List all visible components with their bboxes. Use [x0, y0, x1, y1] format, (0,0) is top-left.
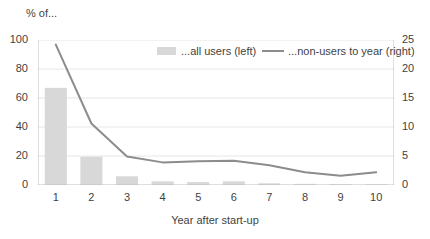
y-axis-right-tick: 15 — [402, 91, 428, 103]
chart-container: % of... 020406080100 0510152025 12345678… — [0, 0, 430, 239]
x-axis-tick: 9 — [326, 191, 356, 203]
legend-item-line: ...non-users to year (right) — [262, 45, 415, 57]
y-axis-left-tick: 0 — [2, 178, 28, 190]
y-axis-right-tick: 10 — [402, 120, 428, 132]
legend-bar-swatch-icon — [157, 47, 176, 55]
bar — [45, 88, 67, 185]
x-axis-tick: 6 — [219, 191, 249, 203]
chart-title: % of... — [26, 7, 57, 19]
bar — [116, 176, 138, 185]
legend-line-swatch-icon — [262, 50, 284, 52]
legend-bars-label: ...all users (left) — [181, 45, 256, 57]
y-axis-left-tick: 60 — [2, 91, 28, 103]
bar — [223, 181, 245, 185]
chart-plot-svg — [38, 40, 394, 185]
y-axis-left-tick: 40 — [2, 120, 28, 132]
y-axis-left-tick: 100 — [2, 33, 28, 45]
y-axis-left-tick: 20 — [2, 149, 28, 161]
legend-line-label: ...non-users to year (right) — [288, 45, 415, 57]
legend-item-bars: ...all users (left) — [157, 45, 256, 57]
bar — [152, 181, 174, 185]
x-axis-tick: 5 — [183, 191, 213, 203]
x-axis-tick: 1 — [41, 191, 71, 203]
y-axis-right-tick: 0 — [402, 178, 428, 190]
plot-area — [38, 40, 394, 185]
x-axis-tick: 3 — [112, 191, 142, 203]
y-axis-right-tick: 5 — [402, 149, 428, 161]
x-axis-tick: 7 — [254, 191, 284, 203]
bar — [80, 157, 102, 185]
x-axis-tick: 4 — [148, 191, 178, 203]
y-axis-left-tick: 80 — [2, 62, 28, 74]
x-axis-tick: 2 — [76, 191, 106, 203]
x-axis-tick: 8 — [290, 191, 320, 203]
x-axis-title: Year after start-up — [0, 214, 430, 226]
y-axis-right-tick: 25 — [402, 33, 428, 45]
y-axis-right-tick: 20 — [402, 62, 428, 74]
x-axis-tick: 10 — [361, 191, 391, 203]
